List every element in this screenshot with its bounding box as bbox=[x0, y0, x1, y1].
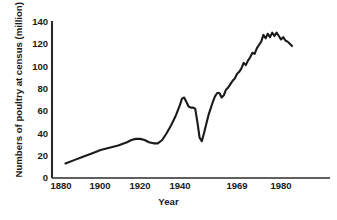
y-tick-140: 140 bbox=[22, 17, 48, 27]
x-tick-1969: 1969 bbox=[220, 181, 254, 191]
y-axis-title: Numbers of poultry at census (million) bbox=[13, 18, 24, 178]
x-tick-1900: 1900 bbox=[83, 181, 117, 191]
y-tick-80: 80 bbox=[22, 84, 48, 94]
y-tick-40: 40 bbox=[22, 129, 48, 139]
x-tick-1920: 1920 bbox=[123, 181, 157, 191]
data-series-line bbox=[65, 33, 292, 164]
y-tick-60: 60 bbox=[22, 106, 48, 116]
y-tick-120: 120 bbox=[22, 39, 48, 49]
x-tick-1940: 1940 bbox=[163, 181, 197, 191]
chart-figure: 140 120 100 80 60 40 20 0 1880 1900 1920… bbox=[0, 0, 337, 220]
x-tick-1880: 1880 bbox=[44, 181, 78, 191]
y-tick-100: 100 bbox=[22, 62, 48, 72]
x-axis-title: Year bbox=[0, 196, 337, 207]
x-tick-1980: 1980 bbox=[264, 181, 298, 191]
y-tick-20: 20 bbox=[22, 151, 48, 161]
